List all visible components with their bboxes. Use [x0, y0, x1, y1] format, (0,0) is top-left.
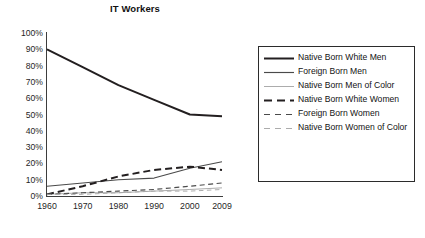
legend-item-label: Foreign Born Women [298, 108, 411, 118]
legend-item-3[interactable]: Native Born White Women [259, 94, 414, 107]
legend-item-5[interactable]: Native Born Women of Color [259, 122, 414, 135]
legend-line-sample-icon [264, 66, 294, 79]
legend-item-0[interactable]: Native Born White Men [259, 52, 414, 65]
legend-item-1[interactable]: Foreign Born Men [259, 66, 414, 79]
legend-line-sample-icon [264, 52, 294, 65]
chart-legend: Native Born White MenForeign Born MenNat… [258, 46, 415, 182]
legend-item-label: Native Born White Women [298, 94, 411, 104]
series-line-0 [47, 49, 222, 116]
legend-item-2[interactable]: Native Born Men of Color [259, 80, 414, 93]
legend-item-label: Native Born Women of Color [298, 122, 411, 132]
legend-line-sample-icon [264, 94, 294, 107]
legend-item-4[interactable]: Foreign Born Women [259, 108, 414, 121]
legend-line-sample-icon [264, 80, 294, 93]
chart-figure: IT Workers 0%10%20%30%40%50%60%70%80%90%… [0, 0, 425, 238]
legend-item-label: Foreign Born Men [298, 66, 411, 76]
legend-line-sample-icon [264, 108, 294, 121]
legend-item-label: Native Born Men of Color [298, 80, 411, 90]
legend-item-label: Native Born White Men [298, 52, 411, 62]
legend-line-sample-icon [264, 122, 294, 135]
